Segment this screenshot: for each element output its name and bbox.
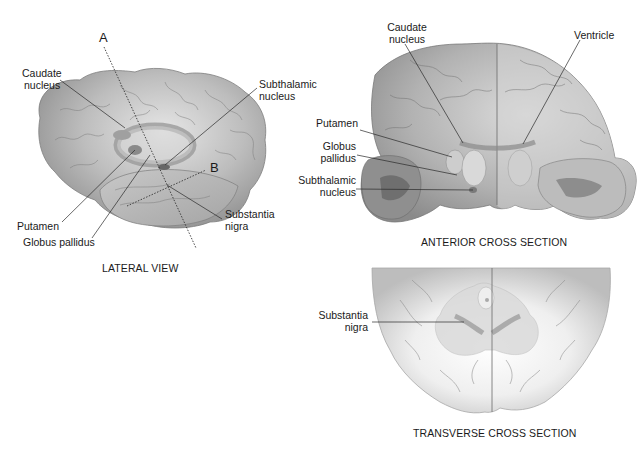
plane-a-label: A xyxy=(99,30,108,45)
anterior-putamen-label: Putamen xyxy=(316,117,358,129)
lateral-brain-shape xyxy=(39,68,266,228)
anterior-globus-pallidus-label-line2: pallidus xyxy=(300,152,356,164)
lateral-caudate-label-line2: nucleus xyxy=(24,79,60,91)
transverse-section-shape xyxy=(372,268,610,413)
plane-b-label: B xyxy=(210,160,219,175)
anterior-subthalamic-label-line1: Subthalamic xyxy=(290,174,356,186)
anterior-subthalamic-label-line2: nucleus xyxy=(290,186,356,198)
lateral-view-title: LATERAL VIEW xyxy=(102,262,178,274)
anterior-ventricle-label: Ventricle xyxy=(574,29,614,41)
transverse-substantia-nigra-label-line1: Substantia xyxy=(300,309,368,321)
anterior-globus-pallidus-label-line1: Globus xyxy=(300,140,356,152)
lateral-substantia-nigra-label-line1: Substantia xyxy=(225,208,275,220)
anterior-section-shape xyxy=(361,43,636,222)
anterior-caudate-label-line1: Caudate xyxy=(382,21,432,33)
lateral-subthalamic-label-line2: nucleus xyxy=(259,90,295,102)
lateral-substantia-nigra-label-line2: nigra xyxy=(225,220,248,232)
lateral-putamen-label: Putamen xyxy=(17,220,59,232)
lateral-caudate-label-line1: Caudate xyxy=(22,67,62,79)
lateral-subthalamic-shape xyxy=(158,164,170,170)
anterior-cross-section-title: ANTERIOR CROSS SECTION xyxy=(421,236,567,248)
lateral-subthalamic-label-line1: Subthalamic xyxy=(259,78,317,90)
lateral-globus-pallidus-label: Globus pallidus xyxy=(23,236,95,248)
transverse-cross-section-title: TRANSVERSE CROSS SECTION xyxy=(413,427,576,439)
transverse-substantia-nigra-label-line2: nigra xyxy=(300,321,368,333)
anterior-caudate-label-line2: nucleus xyxy=(382,33,432,45)
lateral-brain-illustration xyxy=(0,0,641,449)
